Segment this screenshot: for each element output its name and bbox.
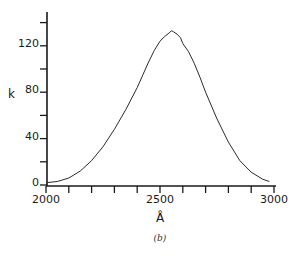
y-axis-label: k: [8, 87, 15, 101]
x-axis: 200025003000: [32, 186, 288, 206]
figure-caption: (b): [154, 233, 167, 243]
y-tick-label: 0: [32, 176, 39, 189]
x-tick-label: 3000: [260, 193, 288, 206]
x-axis-label: Å: [156, 210, 165, 225]
chart-canvas: 04080120 200025003000 k Å (b): [0, 0, 300, 257]
y-axis: 04080120: [18, 12, 47, 189]
x-tick-label: 2000: [32, 193, 60, 206]
y-tick-label: 40: [25, 130, 39, 143]
x-tick-label: 2500: [146, 193, 174, 206]
y-tick-label: 80: [25, 83, 39, 96]
spectrum-curve: [46, 31, 269, 183]
y-tick-label: 120: [18, 37, 39, 50]
